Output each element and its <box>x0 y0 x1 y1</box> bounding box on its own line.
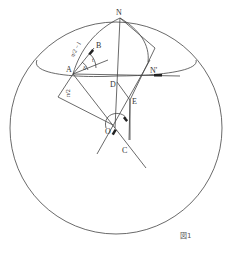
arrow-marker-O <box>123 117 128 122</box>
label-C: C <box>122 146 127 155</box>
label-delta: δ <box>83 65 86 71</box>
label-A: A <box>66 65 72 74</box>
sphere-outline <box>10 22 222 234</box>
label-N-prime: N' <box>150 66 158 75</box>
figure-caption: 図1 <box>180 232 191 240</box>
label-B: B <box>96 41 101 50</box>
axis-marker-O <box>112 129 117 135</box>
celestial-sphere-diagram: N N' A B D E O C π/2 − l δ t π/2 図1 <box>0 0 232 254</box>
arc-N-Nprime <box>120 18 148 62</box>
label-O: O <box>105 127 111 136</box>
label-E: E <box>132 97 137 106</box>
right-angle-triangle <box>58 74 113 125</box>
line-N-O <box>115 18 120 128</box>
label-right-angle: π/2 <box>65 89 71 97</box>
label-D: D <box>110 80 116 89</box>
line-D-E <box>117 82 130 100</box>
line-axis <box>97 60 150 154</box>
label-N: N <box>116 8 122 17</box>
horizon-ellipse <box>36 60 196 77</box>
arrow-marker-B <box>88 49 94 55</box>
line-N-corner <box>120 18 155 140</box>
label-t: t <box>92 57 94 63</box>
